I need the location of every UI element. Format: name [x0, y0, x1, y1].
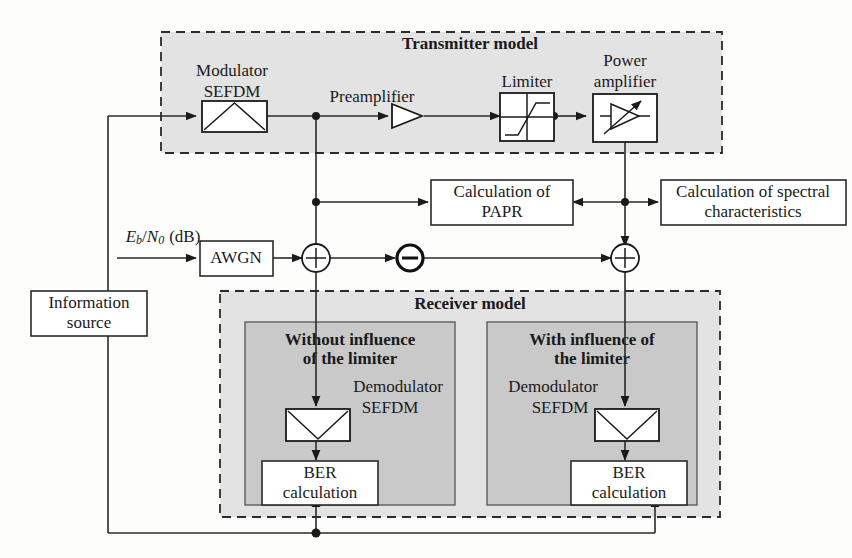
demodulator-left-block[interactable]: [286, 409, 350, 441]
ber-left-block[interactable]: BER calculation: [262, 461, 378, 505]
ber-left-label-line2: calculation: [283, 483, 358, 502]
junction-dot-papr-right: [621, 198, 629, 206]
ebn0-symbol-e: E: [125, 227, 137, 246]
papr-block[interactable]: Calculation of PAPR: [431, 180, 573, 225]
demodulator-right-label-line1: Demodulator: [508, 377, 598, 396]
ber-left-label-line1: BER: [303, 463, 337, 482]
awgn-block[interactable]: AWGN: [200, 241, 273, 276]
modulator-label-line1: Modulator: [196, 61, 268, 80]
svg-text:Eb/N0(dB): Eb/N0(dB): [125, 227, 201, 247]
information-source-block[interactable]: Information source: [31, 291, 147, 336]
limiter-block[interactable]: [500, 93, 554, 141]
demodulator-right-label-line2: SEFDM: [532, 398, 589, 417]
diff-operator[interactable]: [397, 245, 423, 271]
papr-label-line2: PAPR: [482, 202, 524, 221]
block-diagram: Transmitter model Receiver model Without…: [0, 0, 852, 558]
spectral-label-line2: characteristics: [704, 202, 801, 221]
power-amplifier-label-line1: Power: [603, 51, 647, 70]
ber-right-label-line2: calculation: [592, 483, 667, 502]
ebn0-unit: (dB): [169, 227, 200, 246]
spectral-label-line1: Calculation of spectral: [676, 182, 830, 201]
ebn0-label: Eb/N0(dB): [125, 227, 201, 247]
modulator-label-line2: SEFDM: [204, 82, 261, 101]
modulator-triangle-icon: [202, 101, 267, 132]
ber-right-block[interactable]: BER calculation: [571, 461, 687, 505]
diagram-canvas: Transmitter model Receiver model Without…: [0, 0, 852, 558]
power-amplifier-label-line2: amplifier: [594, 72, 657, 91]
ber-right-label-line1: BER: [612, 463, 646, 482]
power-amplifier-block[interactable]: [593, 94, 657, 142]
spectral-block[interactable]: Calculation of spectral characteristics: [661, 180, 846, 225]
variable-gain-amplifier-icon: [593, 94, 657, 142]
branch-without-limiter-label-line2: of the limiter: [303, 349, 398, 368]
branch-without-limiter-label-line1: Without influence: [285, 330, 416, 349]
branch-with-limiter-label-line1: With influence of: [529, 330, 655, 349]
sum-left-operator[interactable]: [302, 244, 330, 272]
information-source-label-line2: source: [67, 313, 111, 332]
sum-right-operator[interactable]: [611, 244, 639, 272]
junction-dot-modulator-tap: [312, 112, 320, 120]
demodulator-triangle-icon: [286, 409, 350, 441]
demodulator-triangle-icon-right: [595, 409, 659, 441]
junction-dot-ber-feedback: [312, 529, 321, 538]
demodulator-right-block[interactable]: [595, 409, 659, 441]
demodulator-left-label-line1: Demodulator: [353, 377, 443, 396]
junction-dot-papr-left: [312, 198, 320, 206]
limiter-label: Limiter: [502, 72, 553, 91]
branch-with-limiter-label-line2: the limiter: [554, 349, 630, 368]
ebn0-sub-0: 0: [158, 233, 164, 247]
papr-label-line1: Calculation of: [454, 182, 551, 201]
preamplifier-label: Preamplifier: [330, 87, 415, 106]
receiver-model-label: Receiver model: [414, 294, 526, 313]
awgn-label: AWGN: [210, 248, 262, 267]
transmitter-model-label: Transmitter model: [402, 34, 538, 53]
demodulator-left-label-line2: SEFDM: [362, 398, 419, 417]
modulator-block[interactable]: [202, 101, 267, 132]
information-source-label-line1: Information: [48, 293, 130, 312]
